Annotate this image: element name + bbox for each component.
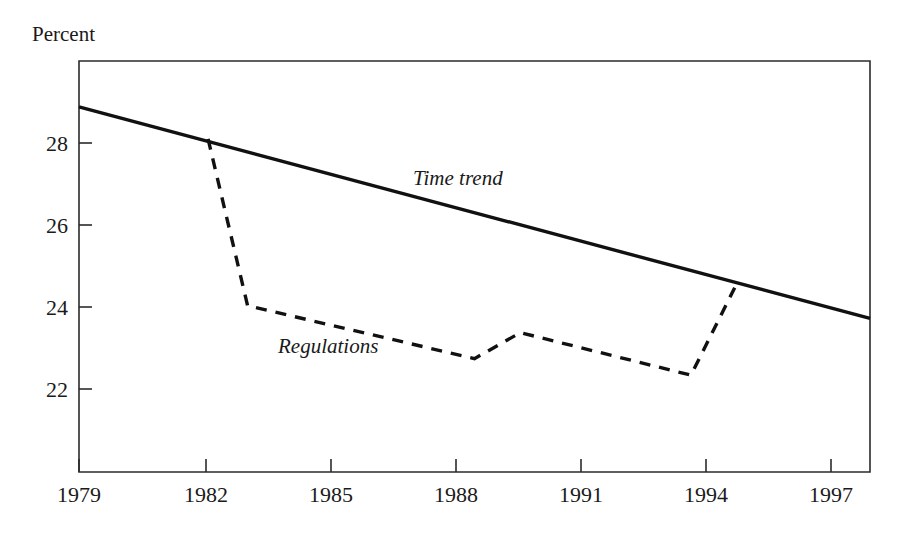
x-axis-ticks — [79, 459, 831, 472]
x-tick-label-1985: 1985 — [309, 482, 353, 507]
line-chart: 28 26 24 22 1979 1982 1985 1988 1991 199… — [0, 0, 897, 537]
y-tick-label-24: 24 — [46, 295, 68, 320]
series-line-time-trend — [79, 107, 870, 319]
y-tick-label-22: 22 — [46, 377, 68, 402]
y-axis-tick-labels: 28 26 24 22 — [46, 131, 68, 402]
y-tick-label-26: 26 — [46, 213, 68, 238]
y-axis-ticks — [79, 143, 92, 389]
series-label-regulations: Regulations — [277, 334, 378, 358]
x-tick-label-1988: 1988 — [434, 482, 478, 507]
y-tick-label-28: 28 — [46, 131, 68, 156]
chart-page: 28 26 24 22 1979 1982 1985 1988 1991 199… — [0, 0, 897, 537]
x-tick-label-1994: 1994 — [684, 482, 728, 507]
series-label-time-trend: Time trend — [413, 166, 503, 190]
x-tick-label-1991: 1991 — [559, 482, 603, 507]
plot-frame — [79, 61, 870, 472]
x-axis-tick-labels: 1979 1982 1985 1988 1991 1994 1997 — [57, 482, 853, 507]
x-tick-label-1982: 1982 — [184, 482, 228, 507]
x-tick-label-1997: 1997 — [809, 482, 853, 507]
x-tick-label-1979: 1979 — [57, 482, 101, 507]
y-axis-caption: Percent — [32, 22, 95, 46]
